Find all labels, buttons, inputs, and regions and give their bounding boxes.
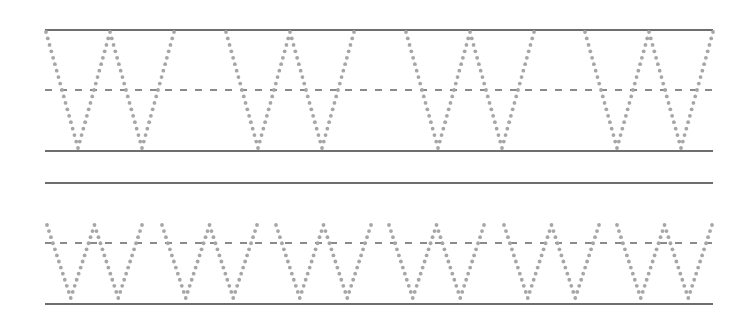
dotted-letter-w (160, 223, 259, 300)
dotted-letter-w (502, 223, 601, 300)
guide-lines (45, 30, 713, 304)
dotted-letter-w (45, 223, 144, 300)
tracing-letters (44, 30, 715, 300)
tracing-worksheet (0, 0, 748, 317)
dotted-letter-w (387, 223, 486, 300)
dotted-letter-w (615, 223, 714, 300)
dotted-letter-w (274, 223, 373, 300)
